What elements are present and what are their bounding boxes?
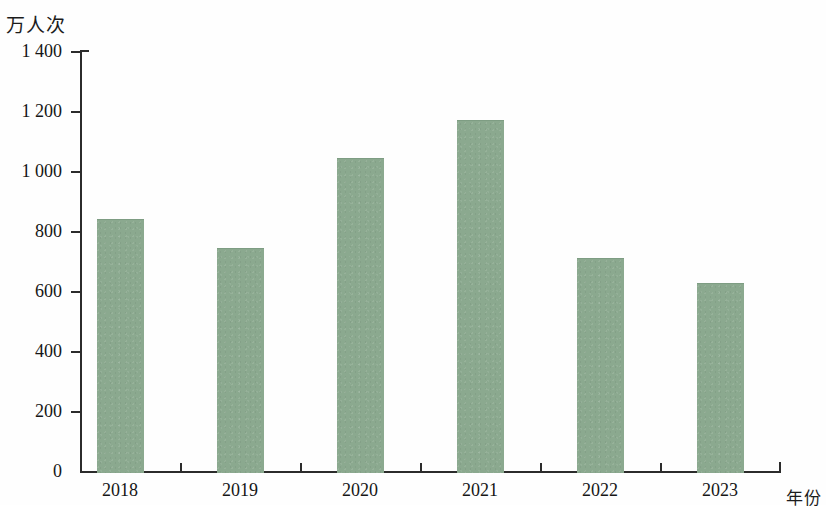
x-axis-title: 年份	[786, 484, 822, 509]
y-tick-600	[71, 291, 81, 293]
y-axis-label-800: 800	[35, 222, 62, 240]
bar-2019	[217, 248, 264, 473]
bar-2020	[337, 158, 384, 473]
x-tick-3	[420, 463, 422, 472]
y-axis-title: 万人次	[6, 10, 66, 37]
x-axis-label-2019: 2019	[180, 480, 300, 500]
x-axis-line	[80, 471, 781, 473]
y-axis-line	[80, 51, 82, 473]
y-axis-top-cap	[80, 50, 89, 52]
bar-2023	[697, 283, 744, 473]
x-axis-label-2023: 2023	[660, 480, 780, 500]
y-tick-1000	[71, 171, 81, 173]
y-tick-400	[71, 351, 81, 353]
y-axis-label-0: 0	[53, 462, 62, 480]
x-tick-5	[660, 463, 662, 472]
x-axis-label-2021: 2021	[420, 480, 540, 500]
x-tick-1	[180, 463, 182, 472]
x-axis-label-2018: 2018	[60, 480, 180, 500]
y-axis-label-1200: 1 200	[22, 102, 63, 120]
x-tick-4	[540, 463, 542, 472]
y-axis-label-1000: 1 000	[22, 162, 63, 180]
bar-2018	[97, 219, 144, 473]
x-axis-label-2022: 2022	[540, 480, 660, 500]
x-tick-2	[300, 463, 302, 472]
x-axis-label-2020: 2020	[300, 480, 420, 500]
bar-2022	[577, 258, 624, 473]
y-tick-1400	[71, 51, 81, 53]
y-axis-label-400: 400	[35, 342, 62, 360]
x-axis-right-cap	[779, 462, 781, 473]
bar-2021	[457, 120, 504, 473]
y-tick-200	[71, 411, 81, 413]
y-axis-label-600: 600	[35, 282, 62, 300]
y-tick-1200	[71, 111, 81, 113]
y-tick-800	[71, 231, 81, 233]
y-axis-label-1400: 1 400	[22, 42, 63, 60]
y-axis-label-200: 200	[35, 402, 62, 420]
